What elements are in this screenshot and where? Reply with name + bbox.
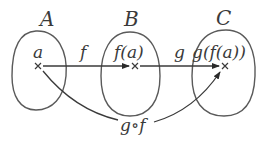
composition-diagram: A B C a f(a) g(f(a)) f g g∘f <box>0 0 269 152</box>
mapping-f-label: f <box>78 42 89 62</box>
element-a-label: a <box>33 42 43 62</box>
point-a: a <box>33 42 43 69</box>
set-a-label: A <box>38 7 54 31</box>
point-gfa: g(f(a)) <box>192 42 246 69</box>
cross-mark-icon <box>132 63 138 69</box>
cross-mark-icon <box>222 63 228 69</box>
point-fa: f(a) <box>112 42 144 69</box>
element-gfa-label: g(f(a)) <box>192 42 246 62</box>
set-b-label: B <box>123 7 139 31</box>
element-fa-label: f(a) <box>112 42 144 62</box>
curve-gof-left <box>43 71 118 120</box>
mapping-gof-label: g∘f <box>120 115 148 135</box>
curve-gof-right <box>154 72 220 122</box>
set-c-label: C <box>216 6 231 30</box>
mapping-gof: g∘f <box>43 71 220 135</box>
mapping-g-label: g <box>174 42 185 62</box>
cross-mark-icon <box>35 63 41 69</box>
